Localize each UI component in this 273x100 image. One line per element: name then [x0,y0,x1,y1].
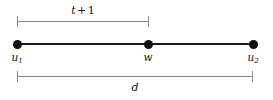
bottom-bracket-rule [17,76,253,77]
top-bracket-left-tick [17,16,18,27]
node-dot-w [144,40,153,49]
top-bracket-label: t+1 [53,5,113,16]
node-label-u1: u1 [7,52,27,63]
bottom-bracket-left-tick [17,71,18,82]
main-segment-line [17,43,253,45]
top-bracket-label-number: 1 [88,4,95,17]
node-label-u2: u2 [243,52,263,63]
top-bracket-right-tick [148,16,149,27]
bottom-bracket-right-tick [252,71,253,82]
node-label-u1-subscript: 1 [18,57,22,65]
node-label-u2-subscript: 2 [254,57,258,65]
node-dot-u1 [13,40,22,49]
node-dot-u2 [249,40,258,49]
top-bracket-label-var: t [71,4,75,17]
node-label-w: w [138,52,158,63]
top-bracket-rule [17,21,149,22]
bottom-bracket-label: d [105,82,165,93]
interval-diagram: t+1 u1 w u2 d [0,0,273,100]
top-bracket-label-operator: + [76,4,88,17]
node-label-w-base: w [144,51,153,63]
